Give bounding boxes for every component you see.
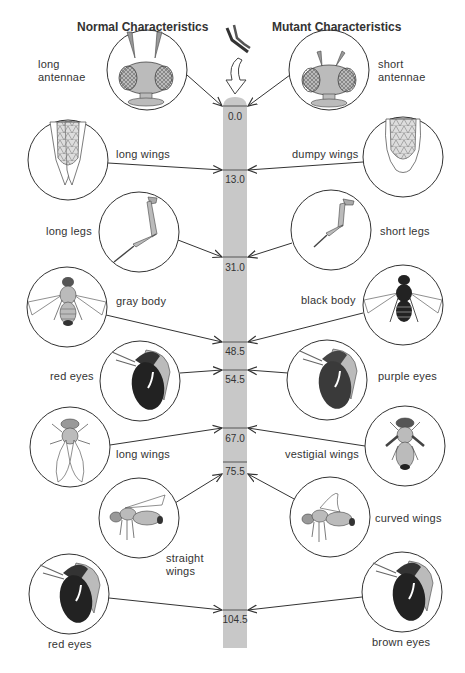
normal-characteristics-heading: Normal Characteristics xyxy=(77,20,208,34)
locus-position: 104.5 xyxy=(220,614,250,625)
locus-position: 48.5 xyxy=(220,346,250,357)
label-line: antennae xyxy=(378,71,425,84)
label-brown-eyes: brown eyes xyxy=(372,636,430,649)
label-short-antennae: short antennae xyxy=(378,58,425,84)
locus-position: 75.5 xyxy=(220,466,250,477)
label-line: long xyxy=(38,58,85,71)
label-short-legs: short legs xyxy=(380,225,430,238)
fly-black-body-icon xyxy=(363,265,443,345)
mutant-characteristics-heading: Mutant Characteristics xyxy=(272,20,401,34)
label-gray-body: gray body xyxy=(116,295,166,308)
fly-long-leg-icon xyxy=(99,192,179,272)
label-black-body: black body xyxy=(301,294,356,307)
fly-long-wings-back-icon xyxy=(28,120,108,200)
label-straight-wings: straight wings xyxy=(166,552,204,578)
fly-straight-wings-icon xyxy=(99,478,179,558)
label-red-eyes: red eyes xyxy=(50,370,94,383)
label-purple-eyes: purple eyes xyxy=(378,370,437,383)
label-line: wings xyxy=(166,565,204,578)
fly-red-eye-icon-2 xyxy=(29,554,109,634)
fly-head-long-antennae-icon xyxy=(107,30,187,110)
fly-curved-wings-icon xyxy=(290,477,370,557)
label-curved-wings: curved wings xyxy=(375,512,442,525)
down-arrow-icon xyxy=(226,58,246,94)
label-line: antennae xyxy=(38,71,85,84)
fly-vestigial-wings-icon xyxy=(365,406,445,486)
fly-purple-eye-icon xyxy=(287,340,367,420)
label-line: short xyxy=(378,58,425,71)
diagram-canvas xyxy=(0,0,465,673)
label-vestigial-wings: vestigial wings xyxy=(285,448,359,461)
label-long-wings: long wings xyxy=(116,148,170,161)
label-dumpy-wings: dumpy wings xyxy=(292,148,358,161)
fly-brown-eye-icon xyxy=(362,552,442,632)
chromosome-icon xyxy=(227,25,250,52)
fly-long-wings-icon xyxy=(30,407,110,487)
label-long-antennae: long antennae xyxy=(38,58,85,84)
label-long-wings-2: long wings xyxy=(116,448,170,461)
fly-dumpy-wings-back-icon xyxy=(363,117,443,197)
locus-position: 13.0 xyxy=(220,174,250,185)
fly-gray-body-icon xyxy=(27,267,107,347)
label-long-legs: long legs xyxy=(46,225,92,238)
fly-short-leg-icon xyxy=(291,190,371,270)
locus-position: 0.0 xyxy=(220,111,250,122)
fly-red-eye-icon xyxy=(100,341,180,421)
label-red-eyes-2: red eyes xyxy=(48,638,92,651)
locus-position: 67.0 xyxy=(220,433,250,444)
fly-head-short-antennae-icon xyxy=(289,30,369,110)
locus-position: 31.0 xyxy=(220,262,250,273)
label-line: straight xyxy=(166,552,204,565)
locus-position: 54.5 xyxy=(220,374,250,385)
